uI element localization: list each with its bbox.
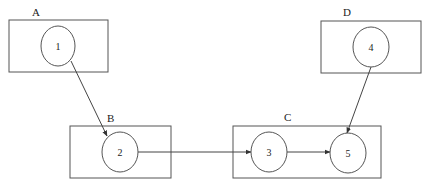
node-label-4: 4 xyxy=(369,42,374,53)
node-label-3: 3 xyxy=(267,147,272,158)
nodes: 12345 xyxy=(41,26,389,173)
node-label-2: 2 xyxy=(118,147,123,158)
edge-4-to-5 xyxy=(347,67,371,133)
group-label-c: C xyxy=(284,111,291,123)
group-label-a: A xyxy=(32,6,40,18)
group-label-d: D xyxy=(343,6,351,18)
node-label-1: 1 xyxy=(56,41,61,52)
node-label-5: 5 xyxy=(346,148,351,159)
group-label-b: B xyxy=(107,112,114,124)
diagram-canvas: ABCD 12345 xyxy=(0,0,428,189)
